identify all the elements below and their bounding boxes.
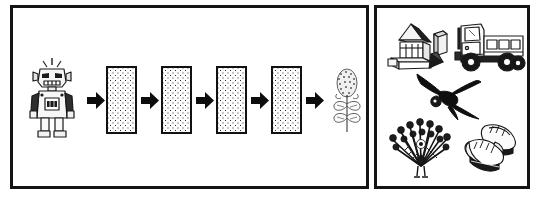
- figure-root: [0, 0, 537, 203]
- arrow-right-icon: [87, 92, 105, 109]
- building-blocks-icon: [385, 18, 451, 74]
- plant-figure: [328, 66, 366, 134]
- stippled-box: [216, 66, 247, 134]
- arrow-right-icon: [196, 92, 214, 109]
- stippled-box: [161, 66, 192, 134]
- bird-icon: [413, 72, 485, 120]
- sneakers-icon: [459, 120, 525, 178]
- stippled-box: [271, 66, 302, 134]
- example-objects-panel: [374, 5, 530, 189]
- dump-truck-icon: [451, 16, 527, 74]
- arrow-right-icon: [251, 92, 269, 109]
- arrow-right-icon: [306, 92, 324, 109]
- arrow-right-icon: [141, 92, 159, 109]
- transformation-sequence-panel: [10, 5, 369, 189]
- stippled-box: [106, 66, 137, 134]
- peacock-icon: [385, 116, 457, 182]
- robot-figure: [27, 56, 77, 138]
